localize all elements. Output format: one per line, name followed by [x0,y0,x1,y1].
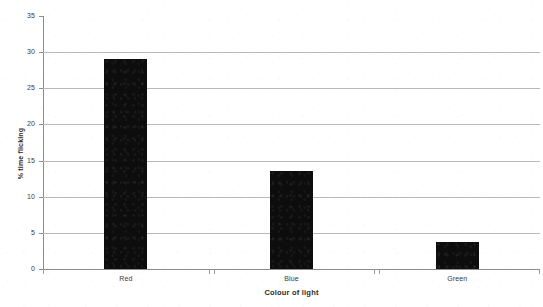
y-axis-tick-label: 15 [5,157,35,165]
x-axis-tick-label: Red [81,274,171,284]
x-axis-tick [43,269,44,274]
gridline [43,52,540,53]
y-axis-tick [39,52,43,53]
x-axis-tick [379,269,380,274]
y-axis-tick-label: 5 [5,229,35,237]
y-axis-tick-label: 35 [5,12,35,20]
y-axis-tick [39,197,43,198]
y-axis-title: % time flicking [14,0,28,307]
bar-chart-screenshot: % time flicking 05101520253035 RedBlueGr… [0,0,543,307]
x-axis-tick [374,269,375,274]
x-axis-tick [209,269,210,274]
y-axis-tick [39,124,43,125]
x-axis-tick [539,269,540,274]
y-axis-line [43,16,44,269]
y-axis-tick [39,16,43,17]
x-axis-title: Colour of light [43,288,540,298]
x-axis-tick [214,269,215,274]
y-axis-tick [39,233,43,234]
y-axis-tick [39,161,43,162]
y-axis-tick [39,88,43,89]
y-axis-tick-label: 30 [5,48,35,56]
y-axis-tick-label: 20 [5,120,35,128]
bar [104,59,147,269]
bar [436,242,479,269]
x-axis-tick-label: Green [412,274,502,284]
y-axis-tick-label: 0 [5,265,35,273]
gridline [43,269,540,270]
plot-area: 05101520253035 RedBlueGreen [43,16,540,269]
x-axis-tick-label: Blue [247,274,337,284]
y-axis-tick-label: 25 [5,84,35,92]
bar [270,171,313,269]
y-axis-tick-label: 10 [5,193,35,201]
